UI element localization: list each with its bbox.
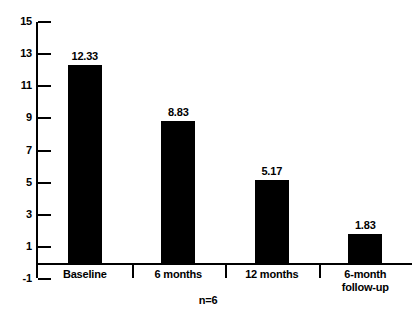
y-tick-label-3: 3 — [6, 209, 32, 220]
y-tick-label-wrap: 3 — [0, 209, 32, 220]
y-tick-label-15: 15 — [6, 16, 32, 27]
category-label-3: 6-monthfollow-up — [319, 268, 413, 294]
bar-3 — [348, 234, 382, 263]
y-tick-label-wrap: 11 — [0, 80, 32, 91]
y-tick-11 — [38, 85, 51, 87]
bar-value-label-3: 1.83 — [319, 220, 413, 231]
category-label-line: 6 months — [132, 268, 226, 281]
y-tick-label-wrap: 5 — [0, 177, 32, 188]
y-tick-15 — [38, 21, 51, 23]
bar-0 — [68, 65, 102, 263]
y-tick-label-wrap: 13 — [0, 48, 32, 59]
category-label-line: 12 months — [225, 268, 319, 281]
bar-2 — [255, 180, 289, 263]
bar-value-label-0: 12.33 — [38, 51, 132, 62]
category-label-0: Baseline — [38, 268, 132, 281]
bar-chart: 15131197531-1 12.338.835.171.83 Baseline… — [0, 0, 416, 316]
chart-caption: n=6 — [0, 295, 416, 306]
category-label-line: 6-month — [319, 268, 413, 281]
y-tick-label-5: 5 — [6, 177, 32, 188]
y-tick-label-wrap: 9 — [0, 112, 32, 123]
y-tick-1 — [38, 246, 51, 248]
y-tick-label-13: 13 — [6, 48, 32, 59]
category-label-1: 6 months — [132, 268, 226, 281]
category-label-line: Baseline — [38, 268, 132, 281]
y-tick-9 — [38, 117, 51, 119]
y-tick-label-wrap: 15 — [0, 16, 32, 27]
y-tick-label-wrap: 1 — [0, 241, 32, 252]
y-tick-7 — [38, 150, 51, 152]
bar-value-label-1: 8.83 — [132, 107, 226, 118]
y-tick-5 — [38, 182, 51, 184]
y-tick-label-1: 1 — [6, 241, 32, 252]
y-tick-label-wrap: 7 — [0, 145, 32, 156]
y-tick-label--1: -1 — [6, 273, 32, 284]
y-tick-label-11: 11 — [6, 80, 32, 91]
category-label-line: follow-up — [319, 281, 413, 294]
y-tick-3 — [38, 214, 51, 216]
y-tick-label-7: 7 — [6, 145, 32, 156]
bar-value-label-2: 5.17 — [225, 166, 319, 177]
bar-1 — [161, 121, 195, 263]
y-tick-label-9: 9 — [6, 112, 32, 123]
x-axis-line — [36, 263, 412, 265]
category-label-2: 12 months — [225, 268, 319, 281]
y-tick-label-wrap: -1 — [0, 273, 32, 284]
